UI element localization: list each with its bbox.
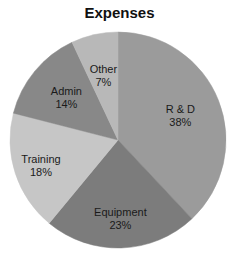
pie-chart: R & D38%Equipment23%Training18%Admin14%O… <box>0 0 239 259</box>
slice-label: Admin <box>51 85 82 97</box>
slice-label: Equipment <box>94 206 147 218</box>
slice-value: 7% <box>95 76 111 88</box>
slice-label: Training <box>21 153 60 165</box>
slice-value: 38% <box>169 116 191 128</box>
slice-label: Other <box>90 63 118 75</box>
slice-value: 14% <box>55 98 77 110</box>
slice-value: 18% <box>30 166 52 178</box>
slice-value: 23% <box>109 219 131 231</box>
slice-label: R & D <box>166 103 195 115</box>
